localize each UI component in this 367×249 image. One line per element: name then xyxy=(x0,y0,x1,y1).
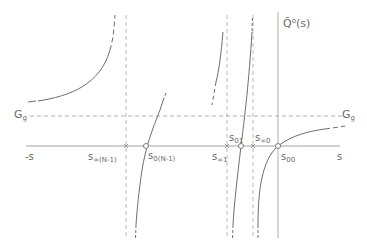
curve-branch-left-upper-dash-a xyxy=(28,101,36,102)
curve-branch-s01-dash-bot xyxy=(233,225,234,240)
zero-label-n-1: s0(N-1) xyxy=(148,151,175,164)
curve-branch-s-inf1-upper xyxy=(216,32,223,82)
pole-label-n-1: s∞(N-1) xyxy=(88,152,117,165)
neg-s-label: -s xyxy=(25,152,34,162)
curve-branch-s01-dash-top xyxy=(252,18,253,32)
pole-zero-diagram xyxy=(0,0,367,249)
curve-branch-s-inf1-upper-dash xyxy=(212,82,216,105)
curve-branch-s00-dash-right xyxy=(325,126,345,129)
zero-label-0: s00 xyxy=(281,152,295,165)
curve-branch-left-upper xyxy=(38,50,110,101)
curve-branch-middle-dash-top xyxy=(164,93,166,98)
curve-branch-s01 xyxy=(233,32,252,225)
gg-label-right: Gg xyxy=(342,110,355,123)
pole-label-0: s∞0 xyxy=(255,133,271,146)
y-axis-label: Q̄o(s) xyxy=(283,16,310,29)
curve-branch-middle-dash-bot xyxy=(136,225,137,240)
gg-label-left: Gg xyxy=(14,110,27,123)
zero-label-1: s01 xyxy=(229,133,243,146)
curve-branch-left-upper-dash-b xyxy=(110,15,115,50)
zero-marker-0 xyxy=(276,144,281,149)
s-axis-label: s xyxy=(337,152,342,162)
pole-label-1: s∞1 xyxy=(212,152,228,165)
zero-marker-n-1 xyxy=(144,144,149,149)
